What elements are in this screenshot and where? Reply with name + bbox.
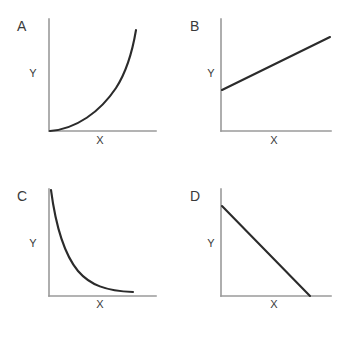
x-axis-label-d: X [270,298,278,310]
four-panel-relationship-figure: A Y X B Y X C Y X D [0,0,346,340]
x-axis-label-b: X [270,134,278,146]
panel-letter-b: B [190,18,199,34]
y-axis-label-c: Y [29,237,37,249]
panel-letter-d: D [190,188,200,204]
x-axis-label-a: X [96,134,104,146]
curve-c-exponential-decay [51,190,133,292]
curve-b-positive-linear [222,37,330,90]
curve-a-exponential-growth [50,30,136,131]
y-axis-label-a: Y [29,67,37,79]
y-axis-label-d: Y [207,237,215,249]
x-axis-label-c: X [96,298,104,310]
panel-d: D Y X [173,170,346,340]
panel-b: B Y X [173,0,346,170]
panel-a: A Y X [0,0,173,170]
panel-c: C Y X [0,170,173,340]
panel-letter-c: C [17,188,27,204]
curve-d-negative-linear [222,206,310,296]
panel-letter-a: A [17,18,27,34]
y-axis-label-b: Y [207,67,215,79]
